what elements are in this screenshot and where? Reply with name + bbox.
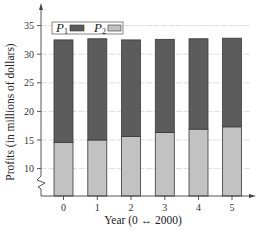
legend-sub-p2: 2 bbox=[102, 27, 106, 36]
legend-label-p1: P bbox=[55, 20, 64, 35]
bar-segment-p1 bbox=[223, 38, 242, 127]
bar-segment-p2 bbox=[88, 140, 107, 196]
y-tick-label: 35 bbox=[24, 20, 34, 31]
bar-group bbox=[54, 40, 73, 196]
x-tick-label: 5 bbox=[230, 202, 235, 213]
legend: P 1 P 2 bbox=[52, 20, 123, 36]
legend-swatch-p2 bbox=[108, 25, 121, 31]
bar-segment-p1 bbox=[88, 39, 107, 140]
y-tick-label: 10 bbox=[24, 163, 34, 174]
bar-group bbox=[122, 40, 141, 196]
x-ticks: 012345 bbox=[61, 196, 235, 213]
y-axis-title: Profits (in millions of dollars) bbox=[4, 43, 17, 181]
bar-segment-p2 bbox=[54, 142, 73, 196]
x-tick-label: 0 bbox=[61, 202, 66, 213]
y-tick-label: 30 bbox=[24, 49, 34, 60]
bar-segment-p2 bbox=[155, 133, 174, 196]
bar-segment-p2 bbox=[122, 137, 141, 196]
bars bbox=[54, 38, 242, 196]
bar-group bbox=[155, 39, 174, 196]
x-axis-arrow-icon bbox=[249, 194, 256, 198]
x-tick-label: 3 bbox=[162, 202, 167, 213]
bar-group bbox=[189, 39, 208, 196]
legend-sub-p1: 1 bbox=[64, 27, 68, 36]
bar-segment-p1 bbox=[122, 40, 141, 137]
x-axis-title: Year (0 ↔ 2000) bbox=[104, 214, 182, 227]
bar-segment-p2 bbox=[189, 129, 208, 196]
bar-segment-p1 bbox=[54, 40, 73, 142]
bar-group bbox=[223, 38, 242, 196]
bar-segment-p2 bbox=[223, 127, 242, 196]
axis-break-icon bbox=[37, 176, 45, 196]
legend-swatch-p1 bbox=[70, 25, 84, 31]
legend-label-p2: P bbox=[93, 20, 102, 35]
y-tick-label: 15 bbox=[24, 135, 34, 146]
x-tick-label: 2 bbox=[129, 202, 134, 213]
bar-segment-p1 bbox=[189, 39, 208, 129]
x-tick-label: 4 bbox=[196, 202, 201, 213]
y-tick-label: 20 bbox=[24, 106, 34, 117]
y-ticks: 101520253035 bbox=[24, 20, 41, 174]
x-tick-label: 1 bbox=[95, 202, 100, 213]
y-axis-arrow-icon bbox=[39, 3, 43, 10]
y-tick-label: 25 bbox=[24, 77, 34, 88]
bar-group bbox=[88, 39, 107, 196]
stacked-bar-chart: 101520253035 012345 Year (0 ↔ 2000) Prof… bbox=[0, 0, 258, 233]
bar-segment-p1 bbox=[155, 39, 174, 132]
